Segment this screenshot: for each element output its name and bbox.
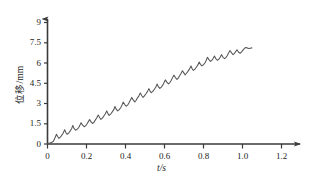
y-tick-label: 9 [22,18,41,27]
x-tick-label: 0.2 [75,152,99,161]
x-tick-label: 1.2 [270,152,294,161]
x-tick-label: 0.6 [153,152,177,161]
x-tick-label: 0.4 [114,152,138,161]
y-tick-label: 0 [22,140,41,149]
x-tick-label: 0.8 [192,152,216,161]
data-series-line [48,47,252,143]
x-axis-label: t/s [157,163,166,173]
chart-figure: 9 7.5 6 4.5 3 1.5 0 0 0.2 0.4 0.6 0.8 1.… [0,0,316,181]
x-axis [48,144,301,149]
x-tick-label: 1.0 [231,152,255,161]
x-tick-label: 0 [38,152,58,161]
y-axis-label: 位移/mm [12,66,26,104]
y-tick-label: 7.5 [15,38,41,47]
y-tick-label: 1.5 [15,119,41,128]
y-axis [44,19,48,144]
